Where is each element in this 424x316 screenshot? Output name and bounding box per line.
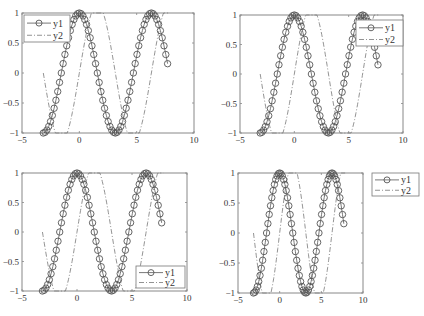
y-tick-label: 0.5 bbox=[224, 198, 236, 208]
legend: y1y2 bbox=[372, 173, 419, 196]
y-tick-label: 1 bbox=[15, 8, 20, 18]
x-tick-label: 10 bbox=[190, 135, 200, 145]
x-tick-label: 10 bbox=[359, 295, 369, 305]
y-tick-label: −1 bbox=[227, 128, 237, 138]
x-tick-label: 10 bbox=[399, 135, 409, 145]
legend-label-y2: y2 bbox=[165, 277, 175, 288]
legend-label-y1: y1 bbox=[53, 18, 63, 29]
y-tick-label: −0.5 bbox=[221, 99, 238, 109]
y-tick-label: 0 bbox=[15, 68, 20, 78]
legend-label-y1: y1 bbox=[385, 22, 395, 33]
x-tick-label: 0 bbox=[75, 293, 80, 303]
legend-label-y1: y1 bbox=[401, 174, 411, 185]
x-tick-label: 10 bbox=[183, 293, 193, 303]
legend: y1y2 bbox=[136, 266, 185, 288]
subplot-4: −50510−1−0.500.51y1y2 bbox=[219, 168, 419, 305]
legend-label-y2: y2 bbox=[53, 30, 63, 41]
subplot-1: −50510−1−0.500.51y1y2 bbox=[3, 8, 199, 145]
y-tick-label: 1 bbox=[231, 168, 236, 178]
legend-box bbox=[24, 15, 70, 42]
legend-label-y2: y2 bbox=[401, 185, 411, 196]
x-tick-label: 5 bbox=[134, 135, 139, 145]
y-tick-label: 0.5 bbox=[8, 198, 20, 208]
figure: −50510−1−0.500.51y1y2−50510−1−0.500.51y1… bbox=[0, 0, 424, 316]
legend: y1y2 bbox=[24, 15, 70, 42]
y-tick-label: 0.5 bbox=[8, 38, 20, 48]
x-tick-label: 5 bbox=[346, 135, 351, 145]
y-tick-label: −1 bbox=[225, 288, 235, 298]
y-tick-label: 0 bbox=[15, 227, 20, 237]
y-tick-label: 0.5 bbox=[226, 40, 238, 50]
x-tick-label: 5 bbox=[130, 293, 135, 303]
legend-box bbox=[136, 266, 185, 288]
subplot-3: −50510−1−0.500.51y1y2 bbox=[3, 168, 192, 303]
y-tick-label: −1 bbox=[9, 286, 19, 296]
x-tick-label: 0 bbox=[292, 135, 297, 145]
x-tick-label: 5 bbox=[319, 295, 324, 305]
y-tick-label: 0 bbox=[231, 228, 236, 238]
subplot-2: −50510−1−0.500.51y1y2 bbox=[221, 10, 408, 145]
x-tick-label: 0 bbox=[77, 135, 82, 145]
y-tick-label: −1 bbox=[9, 128, 19, 138]
y-tick-label: −0.5 bbox=[3, 98, 20, 108]
y-tick-label: 1 bbox=[233, 10, 238, 20]
x-tick-label: 0 bbox=[277, 295, 282, 305]
y-tick-label: 1 bbox=[15, 168, 20, 178]
y-tick-label: −0.5 bbox=[219, 258, 236, 268]
legend-box bbox=[356, 20, 403, 46]
legend-label-y2: y2 bbox=[385, 34, 395, 45]
y-tick-label: −0.5 bbox=[3, 257, 20, 267]
legend: y1y2 bbox=[356, 20, 403, 46]
legend-box bbox=[372, 173, 419, 196]
y-tick-label: 0 bbox=[233, 69, 238, 79]
